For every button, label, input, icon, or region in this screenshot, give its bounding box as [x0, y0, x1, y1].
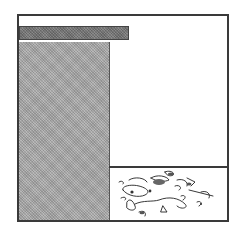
shaded-column: [19, 42, 110, 220]
debris-sketch-icon: [117, 170, 217, 218]
outer-frame: [17, 14, 229, 222]
diagram-canvas: [0, 0, 240, 228]
horizontal-divider: [109, 166, 227, 168]
top-bar: [19, 26, 129, 40]
